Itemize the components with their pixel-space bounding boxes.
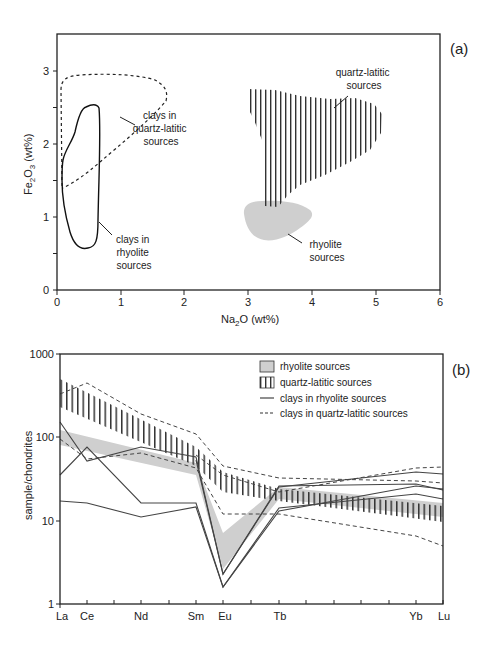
- y-axis-label: sample/chondrites: [22, 430, 34, 520]
- x-tick-Lu: Lu: [438, 610, 450, 622]
- legend-label-clay-quartz-latitic: clays in quartz-latitic sources: [280, 408, 408, 419]
- y-tick-1: 1: [43, 211, 49, 223]
- y-tick-1000: 1000: [30, 348, 54, 360]
- x-tick-Sm: Sm: [188, 610, 205, 622]
- y-tick-10: 10: [42, 515, 54, 527]
- x-axis-label: Na2O (wt%): [221, 313, 279, 328]
- x-tick-4: 4: [309, 296, 315, 308]
- legend-label-clay-rhyolite: clays in rhyolite sources: [280, 393, 386, 404]
- y-tick-0: 0: [43, 284, 49, 296]
- x-tick-Nd: Nd: [134, 610, 148, 622]
- x-tick-Tb: Tb: [274, 610, 287, 622]
- annotation-clays-rhyolite: clays in rhyolite sources: [116, 234, 152, 271]
- y-tick-3: 3: [43, 65, 49, 77]
- x-tick-Yb: Yb: [409, 610, 422, 622]
- panel-b: 1000 100 10 1 La Ce Nd Sm Eu Tb Yb: [22, 348, 470, 622]
- panel-a: 0 1 2 3 0 1 2 3 4 5 6 Na2O (wt%) Fe2O3 (…: [22, 34, 468, 328]
- x-tick-3: 3: [245, 296, 251, 308]
- legend-label-rhyolite: rhyolite sources: [280, 361, 350, 372]
- x-tick-2: 2: [181, 296, 187, 308]
- legend-swatch-quartz-latitic: [260, 377, 274, 388]
- y-tick-100: 100: [36, 431, 54, 443]
- quartz-latitic-sources-region: [248, 89, 382, 207]
- x-tick-La: La: [56, 610, 69, 622]
- panel-b-label: (b): [452, 361, 470, 378]
- annotation-rhyolite: rhyolite sources: [309, 239, 344, 263]
- x-tick-6: 6: [437, 296, 443, 308]
- y-tick-1: 1: [48, 598, 54, 610]
- leader-line: [288, 234, 302, 243]
- legend-swatch-rhyolite: [260, 361, 274, 372]
- x-tick-1: 1: [118, 296, 124, 308]
- panel-a-label: (a): [450, 40, 468, 57]
- leader-line: [99, 222, 112, 235]
- x-tick-5: 5: [373, 296, 379, 308]
- figure: 0 1 2 3 0 1 2 3 4 5 6 Na2O (wt%) Fe2O3 (…: [0, 0, 491, 648]
- legend-label-quartz-latitic: quartz-latitic sources: [280, 377, 372, 388]
- x-tick-Eu: Eu: [218, 610, 231, 622]
- panel-a-x-ticks: [57, 290, 440, 295]
- annotation-clays-quartz-latitic: clays in quartz-latitic sources: [133, 110, 190, 147]
- annotation-quartz-latitic: quartz-latitic sources: [336, 67, 393, 91]
- y-axis-label: Fe2O3 (wt%): [22, 134, 37, 195]
- legend: rhyolite sources quartz-latitic sources …: [260, 361, 408, 419]
- x-tick-Ce: Ce: [80, 610, 94, 622]
- x-tick-0: 0: [54, 296, 60, 308]
- y-tick-2: 2: [43, 138, 49, 150]
